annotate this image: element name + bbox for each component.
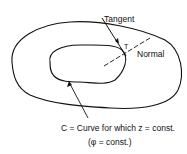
caption-curve-definition: C = Curve for which z = const.: [61, 123, 175, 133]
outer-curve: [12, 22, 182, 109]
normal-label: Normal: [137, 49, 164, 59]
curve-pointer-line: [70, 84, 88, 118]
caption-phi-const: (φ = const.): [88, 137, 132, 147]
inner-curve-c: [50, 45, 126, 83]
tangent-vector-label: T: [124, 42, 128, 52]
tangent-label: Tangent: [104, 14, 134, 24]
